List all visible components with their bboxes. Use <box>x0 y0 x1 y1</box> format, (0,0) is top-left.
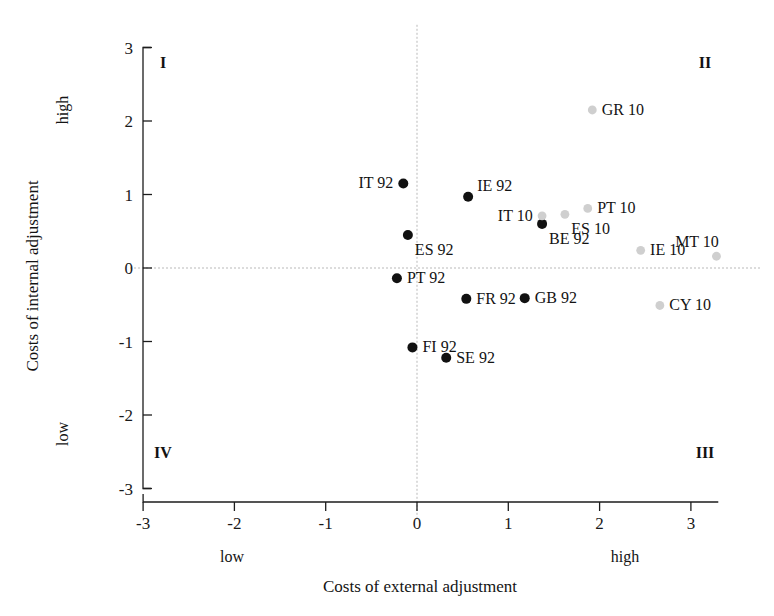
data-label-mt-10: MT 10 <box>675 233 719 250</box>
x-axis-tick-label: -2 <box>227 514 241 533</box>
data-point-mt-10[interactable] <box>712 252 721 261</box>
data-point-ie-10[interactable] <box>636 246 645 255</box>
y-axis-low-label: low <box>54 422 71 446</box>
x-axis-tick-label: -3 <box>136 514 150 533</box>
data-label-fr-92: FR 92 <box>476 290 516 307</box>
data-point-cy-10[interactable] <box>655 301 664 310</box>
data-point-es-92[interactable] <box>403 230 413 240</box>
data-label-it-10: IT 10 <box>498 207 533 224</box>
data-point-pt-92[interactable] <box>392 273 402 283</box>
data-point-es-10[interactable] <box>561 210 570 219</box>
data-label-pt-92: PT 92 <box>407 269 445 286</box>
quadrant-label-iv: IV <box>154 444 172 461</box>
data-point-fi-92[interactable] <box>407 342 417 352</box>
data-point-pt-10[interactable] <box>583 204 592 213</box>
data-label-es-92: ES 92 <box>415 241 454 258</box>
data-label-es-10: ES 10 <box>571 220 610 237</box>
data-point-se-92[interactable] <box>441 353 451 363</box>
y-axis-tick-label: 1 <box>125 186 134 205</box>
x-axis-line <box>143 494 718 502</box>
y-axis-high-label: high <box>54 96 72 124</box>
data-label-gb-92: GB 92 <box>535 289 577 306</box>
scatter-plot-figure: 3210-1-2-3-3-2-10123Costs of internal ad… <box>0 0 774 616</box>
data-label-ie-92: IE 92 <box>477 177 512 194</box>
data-point-be-92[interactable] <box>537 219 547 229</box>
data-label-se-92: SE 92 <box>456 349 495 366</box>
y-axis-tick-label: 2 <box>125 112 134 131</box>
x-axis-low-label: low <box>220 548 244 565</box>
data-point-it-10[interactable] <box>538 211 547 220</box>
data-label-gr-10: GR 10 <box>602 101 644 118</box>
x-axis-tick-label: -1 <box>319 514 333 533</box>
x-axis-high-label: high <box>611 548 639 566</box>
data-label-it-92: IT 92 <box>358 174 393 191</box>
y-axis-tick-label: -1 <box>119 333 133 352</box>
scatter-plot-svg: 3210-1-2-3-3-2-10123Costs of internal ad… <box>0 0 774 616</box>
x-axis-tick-label: 2 <box>595 514 604 533</box>
quadrant-label-i: I <box>160 54 166 71</box>
data-point-ie-92[interactable] <box>463 192 473 202</box>
quadrant-label-iii: III <box>696 444 715 461</box>
y-axis-tick-label: -2 <box>119 406 133 425</box>
data-label-pt-10: PT 10 <box>597 199 635 216</box>
y-axis-title: Costs of internal adjustment <box>23 180 42 372</box>
quadrant-label-ii: II <box>699 54 711 71</box>
y-axis-tick-label: -3 <box>119 480 133 499</box>
data-point-fr-92[interactable] <box>461 294 471 304</box>
x-axis-tick-label: 0 <box>413 514 422 533</box>
x-axis-tick-label: 1 <box>504 514 513 533</box>
data-point-gr-10[interactable] <box>588 106 597 115</box>
data-point-gb-92[interactable] <box>520 293 530 303</box>
data-point-it-92[interactable] <box>398 178 408 188</box>
figure-caption-partial <box>0 602 774 616</box>
data-label-cy-10: CY 10 <box>669 296 711 313</box>
x-axis-title: Costs of external adjustment <box>323 577 517 596</box>
data-label-fi-92: FI 92 <box>422 338 456 355</box>
x-axis-tick-label: 3 <box>687 514 696 533</box>
y-axis-tick-label: 3 <box>125 39 134 58</box>
y-axis-tick-label: 0 <box>125 259 134 278</box>
